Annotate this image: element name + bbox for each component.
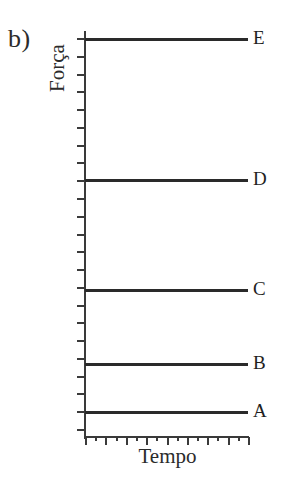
x-axis-tick-minor xyxy=(156,437,158,441)
x-axis-tick-minor xyxy=(197,437,199,441)
x-axis-tick xyxy=(126,437,128,445)
y-axis-tick xyxy=(77,234,86,236)
y-axis-tick xyxy=(77,56,86,58)
y-axis-tick xyxy=(77,358,86,360)
trace-line-a xyxy=(85,411,248,414)
trace-line-c xyxy=(85,289,248,292)
y-axis-tick xyxy=(77,127,86,129)
panel-label: b) xyxy=(8,26,31,52)
force-time-figure: b) Força Tempo EDCBA xyxy=(0,0,297,477)
x-axis-tick xyxy=(228,437,230,445)
x-axis-tick-minor xyxy=(238,437,240,441)
trace-line-e xyxy=(85,38,248,41)
y-axis-tick xyxy=(77,376,86,378)
x-axis-tick xyxy=(85,437,87,445)
trace-label-c: C xyxy=(253,279,266,298)
x-axis-tick xyxy=(187,437,189,445)
y-axis-tick xyxy=(77,251,86,253)
y-axis-tick xyxy=(77,269,86,271)
y-axis-tick xyxy=(77,305,86,307)
y-axis-tick xyxy=(77,145,86,147)
y-axis-tick xyxy=(77,429,86,431)
trace-line-b xyxy=(85,363,248,366)
x-axis-tick-minor xyxy=(136,437,138,441)
y-axis-tick xyxy=(77,91,86,93)
y-axis-tick xyxy=(77,393,86,395)
y-axis-tick xyxy=(77,74,86,76)
trace-label-e: E xyxy=(253,28,265,47)
trace-label-a: A xyxy=(253,401,267,420)
y-axis-title: Força xyxy=(44,0,70,138)
y-axis-tick xyxy=(77,322,86,324)
x-axis-tick xyxy=(105,437,107,445)
x-axis-tick-minor xyxy=(95,437,97,441)
x-axis-tick-minor xyxy=(217,437,219,441)
trace-line-d xyxy=(85,179,248,182)
x-axis-tick xyxy=(248,437,250,445)
y-axis-tick xyxy=(77,198,86,200)
x-axis-tick xyxy=(146,437,148,445)
y-axis-tick xyxy=(77,216,86,218)
trace-label-d: D xyxy=(253,169,267,188)
x-axis-tick-minor xyxy=(177,437,179,441)
y-axis-tick xyxy=(77,109,86,111)
trace-label-b: B xyxy=(253,353,266,372)
x-axis-tick-minor xyxy=(116,437,118,441)
x-axis-tick xyxy=(207,437,209,445)
y-axis-tick xyxy=(77,162,86,164)
x-axis-title: Tempo xyxy=(85,443,250,469)
x-axis-tick xyxy=(167,437,169,445)
y-axis-tick xyxy=(77,340,86,342)
